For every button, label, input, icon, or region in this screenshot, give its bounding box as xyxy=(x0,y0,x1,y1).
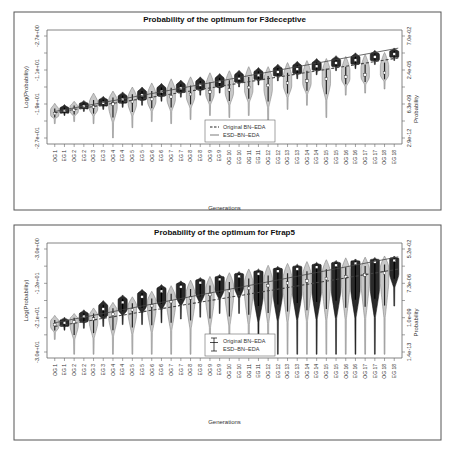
x-tick-label: EG 10 xyxy=(236,364,242,378)
x-tick-label: OG 1 xyxy=(52,364,58,376)
x-tick-label: EG 10 xyxy=(236,150,242,164)
x-tick-label: EG 11 xyxy=(255,364,261,378)
x-tick-label: OG 16 xyxy=(343,150,349,165)
x-tick-label: EG 5 xyxy=(139,150,145,162)
median-marker xyxy=(383,272,386,275)
figure: Probability of the optimum for F3decepti… xyxy=(0,0,463,450)
y-axis-label-right: Probability xyxy=(413,95,419,123)
x-tick-label: EG 18 xyxy=(391,364,397,378)
x-tick-label: EG 3 xyxy=(100,364,106,376)
median-marker xyxy=(170,95,173,98)
x-tick-label: EG 12 xyxy=(275,364,281,378)
x-tick-label: EG 15 xyxy=(333,364,339,378)
x-tick-label: OG 14 xyxy=(304,150,310,165)
x-tick-label: OG 5 xyxy=(129,150,135,162)
median-marker xyxy=(189,93,192,96)
x-tick-label: OG 4 xyxy=(110,150,116,162)
median-marker xyxy=(228,290,231,293)
median-marker xyxy=(364,73,367,76)
x-tick-label: EG 1 xyxy=(61,150,67,162)
x-tick-label: OG 11 xyxy=(246,364,252,379)
y-tick-label-right: 5.2e-02 xyxy=(406,240,412,259)
median-marker xyxy=(199,281,202,284)
median-marker xyxy=(228,89,231,92)
x-tick-label: EG 4 xyxy=(119,364,125,376)
x-tick-label: OG 12 xyxy=(265,364,271,379)
legend-label: ESD–BN–EDA xyxy=(223,132,260,138)
y-tick-label-left: -1.1e+01 xyxy=(34,59,40,81)
x-tick-label: EG 2 xyxy=(81,364,87,376)
x-tick-label: EG 7 xyxy=(178,364,184,376)
x-tick-label: OG 6 xyxy=(149,364,155,376)
x-tick-label: OG 15 xyxy=(323,150,329,165)
median-marker xyxy=(344,76,347,79)
y-tick-label-left: -3.0e+01 xyxy=(34,341,40,363)
median-marker xyxy=(306,280,309,283)
x-tick-label: EG 17 xyxy=(372,364,378,378)
y-tick-label-left: -1.9e+01 xyxy=(34,93,40,115)
x-tick-label: OG 8 xyxy=(187,364,193,376)
x-tick-label: EG 8 xyxy=(197,150,203,162)
x-tick-label: EG 9 xyxy=(216,364,222,376)
x-tick-label: OG 13 xyxy=(284,364,290,379)
x-tick-label: EG 13 xyxy=(294,150,300,164)
x-tick-label: OG 7 xyxy=(168,150,174,162)
median-marker xyxy=(209,91,212,94)
median-marker xyxy=(315,266,318,269)
x-tick-label: EG 8 xyxy=(197,364,203,376)
median-marker xyxy=(315,65,318,68)
x-tick-label: EG 6 xyxy=(158,364,164,376)
chart-title: Probability of the optimum for F3decepti… xyxy=(143,15,306,24)
x-tick-label: OG 15 xyxy=(323,364,329,379)
x-tick-label: OG 1 xyxy=(52,150,58,162)
median-marker xyxy=(102,308,105,311)
x-tick-label: OG 12 xyxy=(265,150,271,165)
x-tick-label: EG 17 xyxy=(372,150,378,164)
median-marker xyxy=(121,301,124,304)
median-marker xyxy=(112,313,115,316)
x-tick-label: EG 16 xyxy=(352,150,358,164)
x-tick-label: EG 14 xyxy=(313,364,319,378)
median-marker xyxy=(277,270,280,273)
x-tick-label: OG 2 xyxy=(71,364,77,376)
x-tick-label: OG 18 xyxy=(381,364,387,379)
x-tick-label: EG 15 xyxy=(333,150,339,164)
x-tick-label: EG 16 xyxy=(352,364,358,378)
median-marker xyxy=(63,321,66,324)
x-tick-label: OG 6 xyxy=(149,150,155,162)
x-tick-label: OG 13 xyxy=(284,150,290,165)
median-marker xyxy=(209,293,212,296)
median-marker xyxy=(267,84,270,87)
x-tick-label: EG 6 xyxy=(158,150,164,162)
median-marker xyxy=(247,287,250,290)
x-tick-label: OG 18 xyxy=(381,150,387,165)
y-axis-label-left: Log(Probability) xyxy=(23,66,29,108)
median-marker xyxy=(150,98,153,101)
y-tick-label-right: 2.4e-05 xyxy=(406,61,412,80)
y-tick-label-right: 2.9e-12 xyxy=(406,129,412,148)
median-marker xyxy=(150,304,153,307)
median-marker xyxy=(277,71,280,74)
x-axis-label: Generations xyxy=(208,205,241,211)
x-tick-label: EG 5 xyxy=(139,364,145,376)
median-marker xyxy=(53,323,56,326)
median-marker xyxy=(325,277,328,280)
y-tick-label-right: 6.3e-09 xyxy=(406,95,412,114)
median-marker xyxy=(267,284,270,287)
chart-title: Probability of the optimum for Ftrap5 xyxy=(154,228,295,237)
x-tick-label: OG 3 xyxy=(90,364,96,376)
y-tick-label-right: 1.0e-09 xyxy=(406,308,412,327)
median-marker xyxy=(141,295,144,298)
x-tick-label: OG 9 xyxy=(207,150,213,162)
x-tick-label: OG 7 xyxy=(168,364,174,376)
median-marker xyxy=(257,272,260,275)
x-tick-label: OG 17 xyxy=(362,150,368,165)
y-tick-label-right: 1.4e-13 xyxy=(406,343,412,362)
x-tick-label: EG 3 xyxy=(100,150,106,162)
x-tick-label: OG 3 xyxy=(90,150,96,162)
median-marker xyxy=(393,53,396,56)
y-tick-label-right: 7.0e-02 xyxy=(406,27,412,46)
y-tick-label-left: -2.1e+01 xyxy=(34,307,40,329)
median-marker xyxy=(112,103,115,106)
x-tick-label: EG 12 xyxy=(275,150,281,164)
